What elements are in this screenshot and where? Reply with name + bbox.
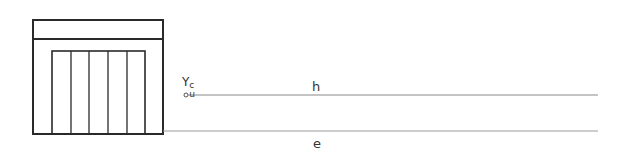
diagram-canvas — [0, 0, 626, 153]
inner-panel — [52, 51, 145, 134]
point-marker-icon — [184, 93, 188, 97]
point-subscript: u — [189, 90, 195, 99]
point-symbol: Y — [182, 75, 189, 89]
lower-line-label: e — [313, 137, 321, 150]
upper-line-label: h — [312, 80, 320, 93]
point-label: Ycu — [182, 76, 197, 88]
